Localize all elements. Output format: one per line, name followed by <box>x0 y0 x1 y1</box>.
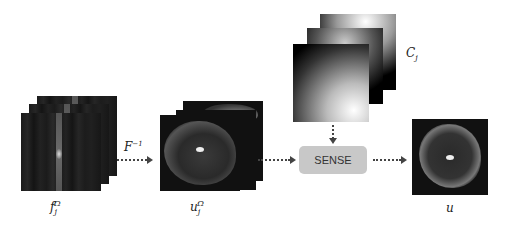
arrow-maps-to-sense <box>332 125 334 139</box>
coil-image <box>160 115 240 191</box>
sensitivity-maps-label: Cj <box>406 46 418 62</box>
inverse-fourier-label: F−1 <box>124 140 143 154</box>
arrow-head-icon <box>329 138 337 144</box>
kspace-image <box>21 113 101 191</box>
arrow-images-to-sense <box>258 159 290 161</box>
output-label: u <box>446 201 454 215</box>
arrow-kspace-to-images <box>117 159 147 161</box>
kspace-label: fjΩ <box>50 199 61 216</box>
arrow-sense-to-output <box>373 159 401 161</box>
arrow-head-icon <box>290 156 296 164</box>
coil-images-label: ujΩ <box>190 199 204 216</box>
arrow-head-icon <box>401 156 407 164</box>
sensitivity-map <box>293 44 369 122</box>
output-image <box>412 119 488 195</box>
arrow-head-icon <box>147 156 153 164</box>
sense-box: SENSE <box>299 146 367 174</box>
